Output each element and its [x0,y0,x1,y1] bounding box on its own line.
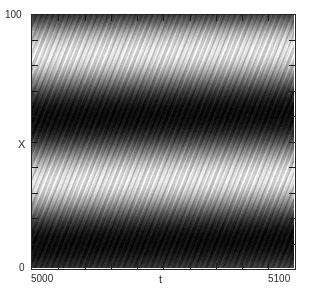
figure-container: 100 0 X 5000 t 5100 [0,0,310,298]
y-axis-tick-label-min: 0 [19,262,25,273]
y-axis-title: X [18,139,25,150]
x-axis-tick-label-max: 5100 [268,273,290,284]
y-axis-tick-label-max: 100 [5,9,22,20]
x-axis-tick-label-min: 5000 [31,273,53,284]
heatmap-plot-area [31,14,294,268]
heatmap-canvas [31,14,294,268]
x-axis-title: t [159,274,162,285]
